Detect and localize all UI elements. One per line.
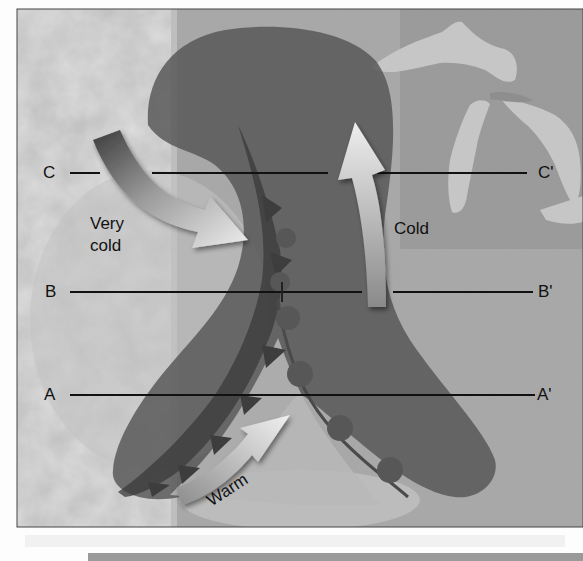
section-b-end-label: B' <box>538 283 553 300</box>
weather-map <box>0 0 583 561</box>
section-c-start-label: C <box>43 164 55 181</box>
section-b-start-label: B <box>45 283 56 300</box>
section-a-start-label: A <box>44 386 55 403</box>
very-cold-label-line2: cold <box>90 237 121 254</box>
cold-label: Cold <box>394 220 429 237</box>
faded-caption-text <box>25 535 565 547</box>
section-a-end-label: A' <box>537 386 552 403</box>
bottom-gray-bar <box>88 553 583 561</box>
section-c-end-label: C' <box>538 164 554 181</box>
very-cold-label-line1: Very <box>90 215 124 232</box>
